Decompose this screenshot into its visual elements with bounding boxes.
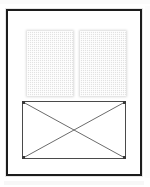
image-placeholder-handle-tr [123, 101, 126, 104]
text-column-right [80, 31, 126, 96]
text-column-left [27, 31, 73, 96]
scan-noise-top [0, 0, 150, 4]
page-border [6, 9, 142, 176]
scan-noise-right [145, 6, 150, 178]
image-placeholder-handle-br [123, 156, 126, 159]
image-placeholder-handle-tl [22, 101, 25, 104]
page-thumbnail-canvas [0, 0, 150, 187]
image-placeholder [22, 101, 126, 159]
scan-noise-bottom [4, 181, 144, 185]
image-placeholder-handle-bl [22, 156, 25, 159]
